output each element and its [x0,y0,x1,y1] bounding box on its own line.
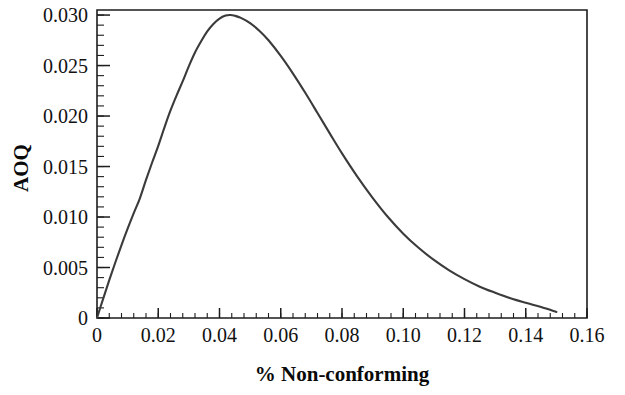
y-tick-label: 0.030 [43,4,88,26]
x-tick-label: 0.04 [202,324,237,346]
y-tick-label: 0.025 [43,55,88,77]
chart-figure: 00.020.040.060.080.100.120.140.16 00.005… [0,0,625,395]
y-tick-label: 0.010 [43,206,88,228]
x-tick-label: 0.16 [570,324,605,346]
aoq-chart-svg: 00.020.040.060.080.100.120.140.16 00.005… [0,0,625,395]
y-tick-label: 0.015 [43,156,88,178]
x-axis-tick-labels: 00.020.040.060.080.100.120.140.16 [92,324,605,346]
y-tick-label: 0.020 [43,105,88,127]
y-axis-title: AOQ [9,144,33,192]
x-axis-title: % Non-conforming [255,362,430,386]
x-tick-label: 0.14 [508,324,543,346]
y-tick-label: 0 [78,307,88,329]
x-tick-label: 0.08 [325,324,360,346]
x-tick-label: 0 [92,324,102,346]
x-tick-label: 0.10 [386,324,421,346]
x-tick-label: 0.06 [263,324,298,346]
y-tick-label: 0.005 [43,257,88,279]
x-tick-label: 0.12 [447,324,482,346]
x-tick-label: 0.02 [141,324,176,346]
